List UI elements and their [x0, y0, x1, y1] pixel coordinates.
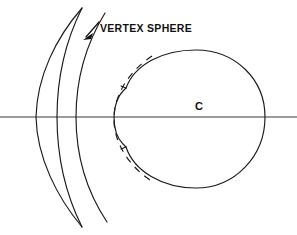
diagram-canvas [0, 0, 297, 235]
vertex-sphere-diagram: VERTEX SPHERE C [0, 0, 297, 235]
label-center-of-rotation: C [195, 101, 203, 112]
eye-globe-outline [126, 50, 265, 188]
leader-line-vertex-sphere [86, 22, 99, 37]
label-vertex-sphere: VERTEX SPHERE [100, 23, 192, 34]
